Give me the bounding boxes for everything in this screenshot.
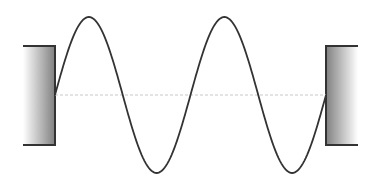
standing-wave-diagram [0,0,381,184]
left-wall-fill [23,46,55,145]
right-wall [326,46,358,145]
left-wall [23,46,55,145]
diagram-canvas [0,0,381,184]
right-wall-fill [326,46,358,145]
